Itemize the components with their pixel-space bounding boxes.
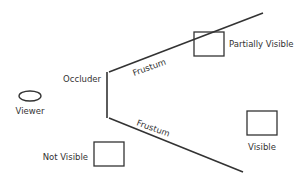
partially-visible-box: [194, 32, 224, 56]
not-visible-label: Not Visible: [43, 152, 88, 162]
visible-label: Visible: [248, 142, 276, 152]
frustum-lower-line: [109, 118, 243, 172]
frustum-upper-label: Frustum: [131, 57, 167, 78]
frustum-diagram: Viewer Occluder Frustum Frustum Partiall…: [0, 0, 307, 181]
visible-box: [247, 111, 277, 135]
partially-visible-label: Partially Visible: [229, 39, 294, 49]
not-visible-box: [94, 142, 124, 166]
viewer-label: Viewer: [16, 106, 45, 116]
occluder-label: Occluder: [63, 74, 101, 84]
viewer-ellipse: [19, 91, 41, 101]
